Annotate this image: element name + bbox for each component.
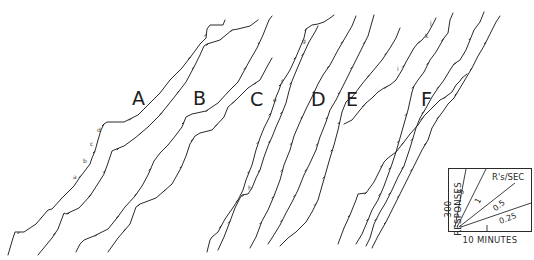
- reinforcement-pip: [102, 124, 104, 126]
- reinforcement-pip: [163, 190, 165, 192]
- reinforcement-pip: [327, 66, 329, 68]
- reinforcement-pip: [437, 117, 439, 119]
- reinforcement-pip: [166, 145, 168, 147]
- reinforcement-pip: [418, 41, 420, 43]
- inset-x-axis-label: 10 MINUTES: [448, 235, 532, 245]
- panel-label-f: F: [421, 90, 432, 109]
- reinforcement-pip: [424, 143, 426, 145]
- curve-c2: [218, 26, 318, 250]
- curve-f1: [356, 13, 453, 244]
- event-label-f: f: [281, 79, 283, 85]
- reinforcement-pip: [299, 227, 301, 229]
- reinforcement-pip: [219, 226, 221, 228]
- reinforcement-pip: [444, 97, 446, 99]
- reinforcement-pip: [53, 233, 55, 235]
- reinforcement-pip: [135, 194, 137, 196]
- reinforcement-pip: [79, 176, 81, 178]
- reinforcement-pip: [138, 204, 140, 206]
- reinforcement-pip: [160, 113, 162, 115]
- reinforcement-pip: [89, 195, 91, 197]
- curve-a1: [8, 20, 225, 255]
- reinforcement-pip: [40, 217, 42, 219]
- curve-d2: [268, 15, 374, 244]
- inset-y-axis-label: 300 RESPONSES: [443, 174, 463, 244]
- reinforcement-pip: [116, 216, 118, 218]
- reinforcement-pip: [192, 67, 194, 69]
- reinforcement-pip: [206, 110, 208, 112]
- event-label-i: i: [397, 66, 399, 72]
- panel-label-d: D: [311, 90, 326, 109]
- reinforcement-pip: [402, 142, 404, 144]
- panel-label-a: A: [132, 89, 145, 108]
- reinforcement-pip: [385, 53, 387, 55]
- reinforcement-pip: [188, 57, 190, 59]
- rate-header: R's/SEC: [492, 173, 524, 182]
- reinforcement-pip: [191, 139, 193, 141]
- reinforcement-pip: [454, 63, 456, 65]
- event-label-j: j: [430, 20, 432, 26]
- reinforcement-pip: [470, 68, 472, 70]
- reinforcement-pip: [61, 197, 63, 199]
- reinforcement-pip: [422, 112, 424, 114]
- reinforcement-pip: [421, 118, 423, 120]
- reinforcement-pip: [437, 86, 439, 88]
- event-label-h: h: [248, 185, 252, 191]
- event-label-a: a: [73, 174, 77, 180]
- event-label-k: k: [425, 33, 428, 39]
- curve-b1: [76, 16, 272, 252]
- event-label-d: d: [97, 127, 101, 133]
- panel-label-e: E: [346, 90, 358, 109]
- reinforcement-pip: [363, 105, 365, 107]
- reinforcement-pip: [124, 229, 126, 231]
- reinforcement-pip: [151, 100, 153, 102]
- event-label-c: c: [90, 141, 93, 147]
- event-label-e: e: [273, 97, 277, 103]
- reinforcement-pip: [254, 82, 256, 84]
- reinforcement-pip: [232, 101, 234, 103]
- curve-d1: [250, 16, 356, 248]
- panel-label-b: B: [193, 89, 206, 108]
- reinforcement-pip: [442, 39, 444, 41]
- reinforcement-pip: [244, 67, 246, 69]
- reinforcement-pip: [169, 79, 171, 81]
- reinforcement-pip: [384, 222, 386, 224]
- panel-label-c: C: [250, 90, 263, 109]
- reinforcement-pip: [230, 30, 232, 32]
- reinforcement-pip: [402, 167, 404, 169]
- reinforcement-pip: [455, 93, 457, 95]
- curve-d3: [280, 28, 400, 246]
- reinforcement-pip: [365, 192, 367, 194]
- curve-c1: [207, 15, 334, 252]
- reinforcement-pip: [305, 28, 307, 30]
- reinforcement-pip: [177, 91, 179, 93]
- reinforcement-pip: [341, 41, 343, 43]
- event-label-g: g: [302, 38, 306, 44]
- reinforcement-pip: [227, 91, 229, 93]
- event-label-b: b: [83, 158, 87, 164]
- reinforcement-pip: [367, 75, 369, 77]
- reinforcement-pip: [215, 125, 217, 127]
- reinforcement-pip: [140, 132, 142, 134]
